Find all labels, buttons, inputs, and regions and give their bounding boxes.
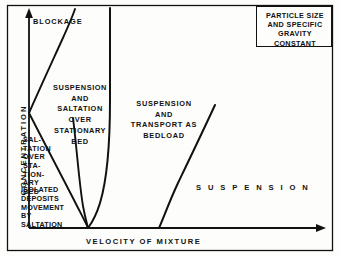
flow-regime-figure: BLOCKAGE SUSPENSION AND SALTATION OVER S… (0, 0, 340, 257)
region-label-blockage: BLOCKAGE (33, 18, 83, 26)
region-label-isolated-deposits: ISOLATED DEPOSITS MOVEMENT BY SALTATION (21, 186, 91, 230)
y-axis-arrow-icon (25, 8, 33, 18)
y-axis-title: CONCENTRATION (20, 95, 28, 205)
note-box-text: PARTICLE SIZE AND SPECIFIC GRAVITY CONST… (257, 11, 333, 48)
region-label-suspension: S U S P E N S I O N (196, 184, 310, 192)
x-axis-title: VELOCITY OF MIXTURE (86, 238, 201, 246)
region-label-suspension-transport-as-bedload: SUSPENSION AND TRANSPORT AS BEDLOAD (118, 99, 210, 142)
note-box: PARTICLE SIZE AND SPECIFIC GRAVITY CONST… (256, 6, 332, 47)
x-axis-arrow-icon (316, 224, 326, 232)
